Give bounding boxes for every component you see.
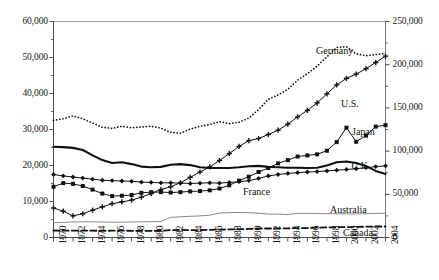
data-point-marker <box>110 194 114 198</box>
series-germany <box>54 47 386 133</box>
x-axis-tick-label: 1992 <box>272 225 282 243</box>
data-point-marker <box>344 126 348 130</box>
y-axis-right-tick-label: 50,000 <box>393 188 419 198</box>
x-axis-tick-label: 1994 <box>292 225 302 243</box>
data-point-marker <box>169 191 173 195</box>
x-axis-tick-label: 1972 <box>77 225 87 243</box>
y-axis-left-tick-label: 10,000 <box>0 196 48 206</box>
data-point-marker <box>90 177 95 182</box>
data-point-marker <box>276 161 280 165</box>
data-point-marker <box>119 179 124 184</box>
data-point-marker <box>257 170 261 174</box>
data-point-marker <box>71 182 75 186</box>
data-point-marker <box>80 176 85 181</box>
data-point-marker <box>276 172 281 177</box>
y-axis-left-tick-label: 0 <box>0 232 48 242</box>
data-point-marker <box>285 171 290 176</box>
data-point-marker <box>383 163 388 168</box>
data-point-marker <box>198 181 203 186</box>
x-axis-tick-label: 1978 <box>136 225 146 243</box>
data-point-marker <box>52 185 56 189</box>
data-point-marker <box>256 176 261 181</box>
data-point-marker <box>325 149 329 153</box>
x-axis-tick-label: 1980 <box>155 225 165 243</box>
data-point-marker <box>178 190 182 194</box>
x-axis-tick-label: 1976 <box>116 225 126 243</box>
data-point-marker <box>208 188 212 192</box>
series-label-canada: Canada <box>343 227 373 238</box>
data-point-marker <box>149 180 154 185</box>
data-point-marker <box>286 158 290 162</box>
data-point-marker <box>71 175 76 180</box>
x-axis-tick-label: 1998 <box>331 225 341 243</box>
data-point-marker <box>159 180 164 185</box>
data-point-marker <box>120 194 124 198</box>
y-axis-right-tick-label: 250,000 <box>393 16 423 26</box>
y-axis-left-tick-label: 50,000 <box>0 52 48 62</box>
data-point-marker <box>168 180 173 185</box>
x-axis-tick-label: 1988 <box>233 225 243 243</box>
data-point-marker <box>295 170 300 175</box>
data-point-marker <box>61 181 65 185</box>
data-point-marker <box>207 180 212 185</box>
x-axis-tick-label: 1996 <box>311 225 321 243</box>
y-axis-left-tick-label: 40,000 <box>0 88 48 98</box>
x-axis-tick-label: 1970 <box>58 225 68 243</box>
chart-container: 010,00020,00030,00040,00050,00060,000050… <box>0 0 439 280</box>
series-label-uk: U.K. <box>351 160 370 171</box>
series-label-france: France <box>243 186 270 197</box>
data-point-marker <box>139 180 144 185</box>
data-point-marker <box>91 188 95 192</box>
data-point-marker <box>344 167 349 172</box>
y-axis-right-tick-label: 200,000 <box>393 59 423 69</box>
data-point-marker <box>354 140 358 144</box>
data-point-marker <box>139 191 143 195</box>
data-point-marker <box>188 189 192 193</box>
series-label-japan: Japan <box>352 126 375 137</box>
data-point-marker <box>129 179 134 184</box>
data-point-marker <box>305 170 310 175</box>
data-point-marker <box>218 187 222 191</box>
data-point-marker <box>305 153 309 157</box>
data-point-marker <box>110 178 115 183</box>
series-france <box>51 163 388 185</box>
data-point-marker <box>188 181 193 186</box>
data-point-marker <box>51 172 56 177</box>
data-point-marker <box>315 152 319 156</box>
x-axis-tick-label: 1984 <box>194 225 204 243</box>
series-label-us: U.S. <box>341 98 359 109</box>
data-point-marker <box>246 178 251 183</box>
y-axis-left-tick-label: 30,000 <box>0 124 48 134</box>
data-point-marker <box>217 181 222 186</box>
x-axis-tick-label: 1974 <box>97 225 107 243</box>
y-axis-left-tick-label: 60,000 <box>0 16 48 26</box>
data-point-marker <box>266 174 271 179</box>
data-point-marker <box>296 155 300 159</box>
x-axis-tick-label: 1982 <box>175 225 185 243</box>
data-point-marker <box>335 140 339 144</box>
data-point-marker <box>198 189 202 193</box>
data-point-marker <box>130 193 134 197</box>
series-label-germany: Germany <box>316 45 353 56</box>
y-axis-right-tick-label: 150,000 <box>393 102 423 112</box>
series-label-australia: Australia <box>330 204 367 215</box>
data-point-marker <box>100 192 104 196</box>
data-point-marker <box>159 190 163 194</box>
y-axis-left-tick-label: 20,000 <box>0 160 48 170</box>
data-point-marker <box>384 123 388 127</box>
series-line <box>54 47 386 133</box>
data-point-marker <box>81 184 85 188</box>
x-axis-tick-label: 2004 <box>390 225 400 243</box>
data-point-marker <box>100 178 105 183</box>
data-point-marker <box>61 174 66 179</box>
data-point-marker <box>315 169 320 174</box>
data-point-marker <box>334 168 339 173</box>
y-axis-right-tick-label: 100,000 <box>393 145 423 155</box>
data-point-marker <box>325 169 330 174</box>
data-point-marker <box>373 164 378 169</box>
data-point-marker <box>149 190 153 194</box>
x-axis-tick-label: 1986 <box>214 225 224 243</box>
data-point-marker <box>247 175 251 179</box>
x-axis-tick-label: 1990 <box>253 225 263 243</box>
